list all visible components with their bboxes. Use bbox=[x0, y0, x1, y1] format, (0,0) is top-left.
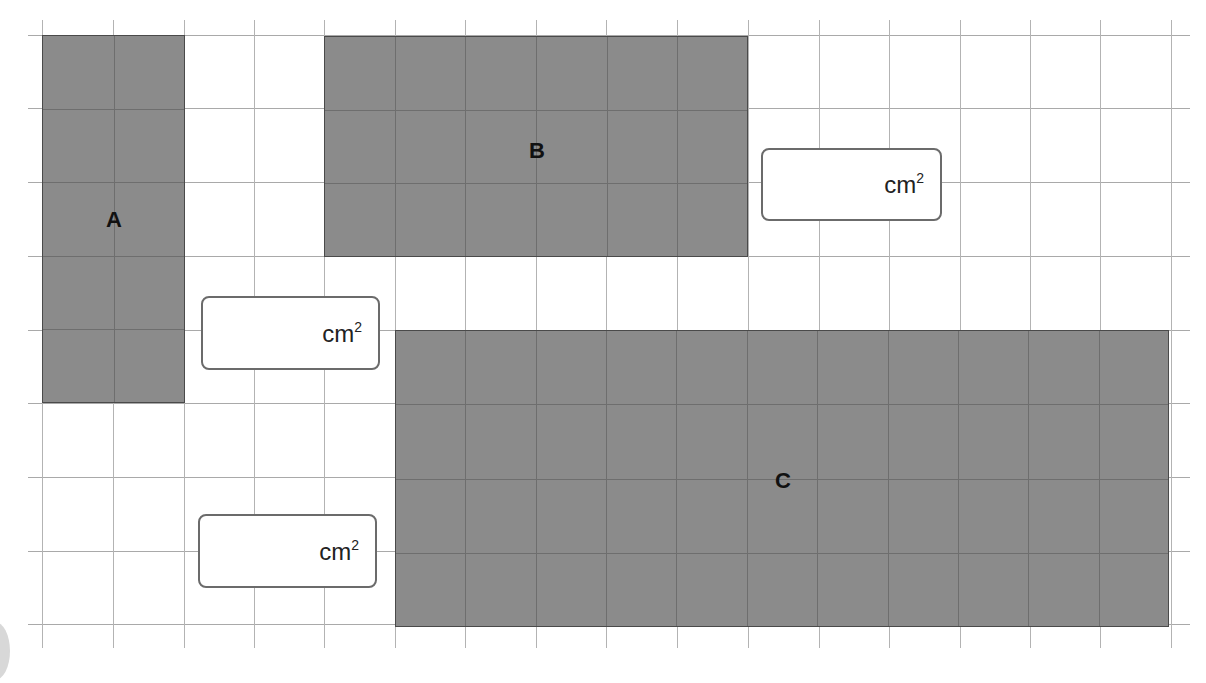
inner-grid-line bbox=[43, 256, 184, 257]
scan-artifact bbox=[0, 622, 10, 680]
inner-grid-line bbox=[325, 110, 747, 111]
inner-grid-line bbox=[43, 182, 184, 183]
rectangle-a-label: A bbox=[106, 207, 122, 233]
inner-grid-line bbox=[465, 37, 466, 256]
answer-box-a[interactable]: cm2 bbox=[201, 296, 380, 370]
inner-grid-line bbox=[43, 109, 184, 110]
inner-grid-line bbox=[677, 37, 678, 256]
inner-grid-line bbox=[395, 37, 396, 256]
unit-exponent: 2 bbox=[354, 319, 362, 335]
inner-grid-line bbox=[43, 329, 184, 330]
grid-worksheet: A B C cm2 cm2 cm2 bbox=[0, 0, 1206, 683]
unit-text: cm bbox=[884, 171, 916, 198]
unit-exponent: 2 bbox=[916, 170, 924, 186]
unit-label: cm2 bbox=[319, 537, 359, 566]
inner-grid-line bbox=[396, 404, 1168, 405]
inner-grid-line bbox=[396, 553, 1168, 554]
area-input-c[interactable] bbox=[229, 536, 313, 566]
grid-line-vertical bbox=[1171, 20, 1172, 648]
answer-box-b[interactable]: cm2 bbox=[761, 148, 942, 221]
rectangle-c-label: C bbox=[775, 468, 791, 494]
unit-label: cm2 bbox=[884, 170, 924, 199]
inner-grid-line bbox=[607, 37, 608, 256]
unit-exponent: 2 bbox=[351, 537, 359, 553]
unit-text: cm bbox=[322, 320, 354, 347]
rectangle-b-label: B bbox=[529, 138, 545, 164]
inner-grid-line bbox=[325, 183, 747, 184]
unit-text: cm bbox=[319, 538, 351, 565]
area-input-a[interactable] bbox=[232, 318, 316, 348]
area-input-b[interactable] bbox=[794, 170, 878, 200]
unit-label: cm2 bbox=[322, 319, 362, 348]
answer-box-c[interactable]: cm2 bbox=[198, 514, 377, 588]
